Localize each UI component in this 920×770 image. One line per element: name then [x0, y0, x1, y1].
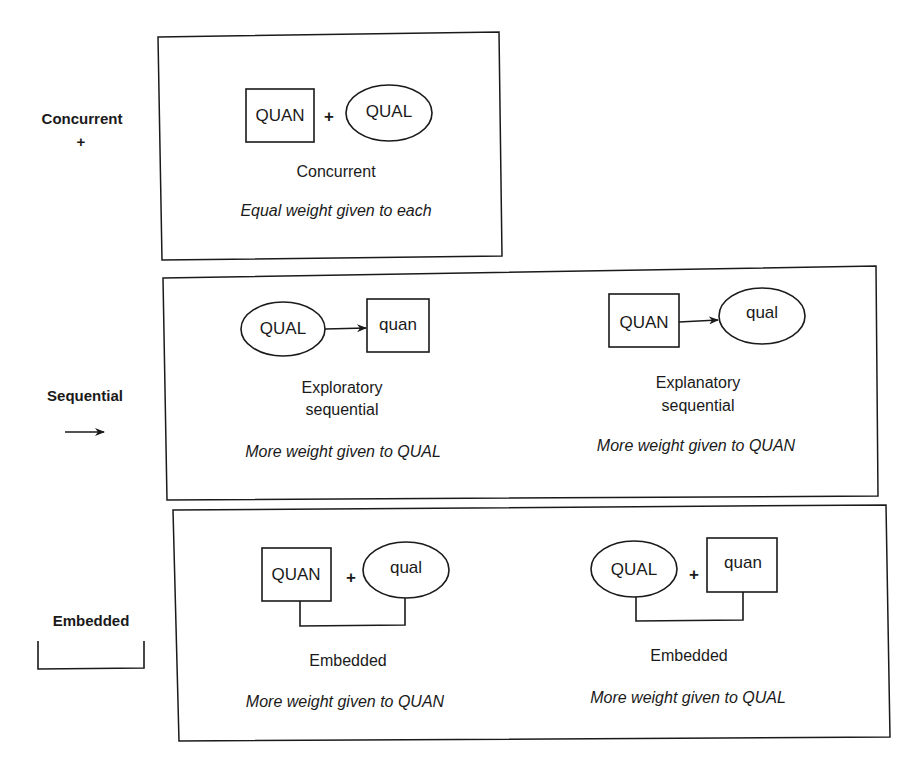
row-label-concurrent: Concurrent [42, 110, 123, 127]
embedded2-weight: More weight given to QUAL [590, 689, 786, 707]
embedded2-quan-label: quan [724, 553, 762, 573]
embedded1-weight: More weight given to QUAN [246, 693, 444, 711]
explanatory-arrow-icon [679, 320, 718, 322]
embedded2-design-name: Embedded [650, 645, 727, 666]
concurrent-quan-label: QUAN [255, 106, 304, 126]
diagram-lines [0, 0, 920, 770]
embedded1-plus: + [346, 568, 356, 588]
embedded2-connector [636, 592, 743, 621]
sequential-panel [163, 266, 878, 500]
embedded2-qual-label: QUAL [611, 560, 657, 580]
row-label-sequential: Sequential [47, 387, 123, 404]
row-label-embedded: Embedded [53, 612, 130, 629]
embedded1-qual-label: qual [390, 558, 422, 578]
embedded1-quan-label: QUAN [271, 565, 320, 585]
explanatory-qual-label: qual [746, 303, 778, 323]
concurrent-plus-icon: + [77, 133, 86, 150]
explanatory-weight: More weight given to QUAN [597, 437, 795, 455]
concurrent-design-name: Concurrent [296, 161, 375, 182]
exploratory-name-line1: Exploratory [302, 377, 383, 398]
explanatory-quan-label: QUAN [619, 313, 668, 333]
embedded1-connector [300, 598, 405, 626]
exploratory-arrow-icon [325, 328, 366, 329]
exploratory-quan-label: quan [379, 315, 417, 335]
concurrent-panel [158, 32, 502, 260]
concurrent-qual-label: QUAL [366, 102, 412, 122]
concurrent-weight: Equal weight given to each [240, 202, 431, 220]
explanatory-name-line2: sequential [662, 395, 735, 416]
embedded2-plus: + [689, 565, 699, 585]
exploratory-name-line2: sequential [306, 399, 379, 420]
exploratory-weight: More weight given to QUAL [245, 443, 441, 461]
embedded-bracket-icon [38, 641, 144, 669]
embedded1-design-name: Embedded [309, 650, 386, 671]
concurrent-plus: + [324, 107, 334, 127]
exploratory-qual-label: QUAL [260, 319, 306, 339]
explanatory-name-line1: Explanatory [656, 372, 741, 393]
